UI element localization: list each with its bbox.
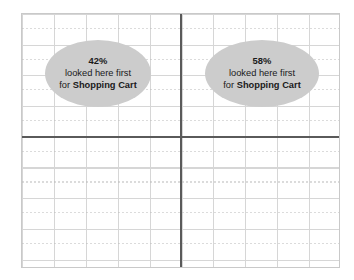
left-callout-line2: looked here first [65,68,131,80]
figure-canvas: 42% looked here first for Shopping Cart … [0,0,354,280]
left-quadrant-callout: 42% looked here first for Shopping Cart [45,40,151,107]
right-callout-line3-emphasis: Shopping Cart [237,80,301,90]
right-callout-line3-prefix: for [223,80,236,90]
vertical-axis-line [180,14,182,267]
right-quadrant-callout: 58% looked here first for Shopping Cart [205,40,319,107]
left-callout-line3: for Shopping Cart [59,80,136,92]
right-callout-percent: 58% [252,55,271,67]
right-callout-line2: looked here first [229,68,295,80]
left-callout-line3-emphasis: Shopping Cart [73,80,137,90]
horizontal-axis-line [22,136,339,138]
right-callout-line3: for Shopping Cart [223,80,300,92]
left-callout-line3-prefix: for [59,80,72,90]
left-callout-percent: 42% [88,55,107,67]
